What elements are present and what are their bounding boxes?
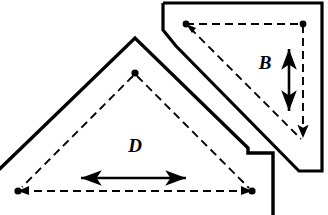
plate-b-inner-hypotenuse	[190, 28, 301, 139]
plate-d-outline	[0, 38, 273, 215]
diagram-svg: B D	[0, 0, 328, 215]
plate-b-vertex-dot-top-right	[300, 21, 307, 28]
label-b: B	[258, 52, 272, 73]
plate-d-vertex-dot-apex	[131, 69, 138, 76]
plate-d-group: D	[0, 38, 273, 215]
label-d: D	[127, 135, 142, 156]
figure-canvas: B D	[0, 0, 328, 215]
